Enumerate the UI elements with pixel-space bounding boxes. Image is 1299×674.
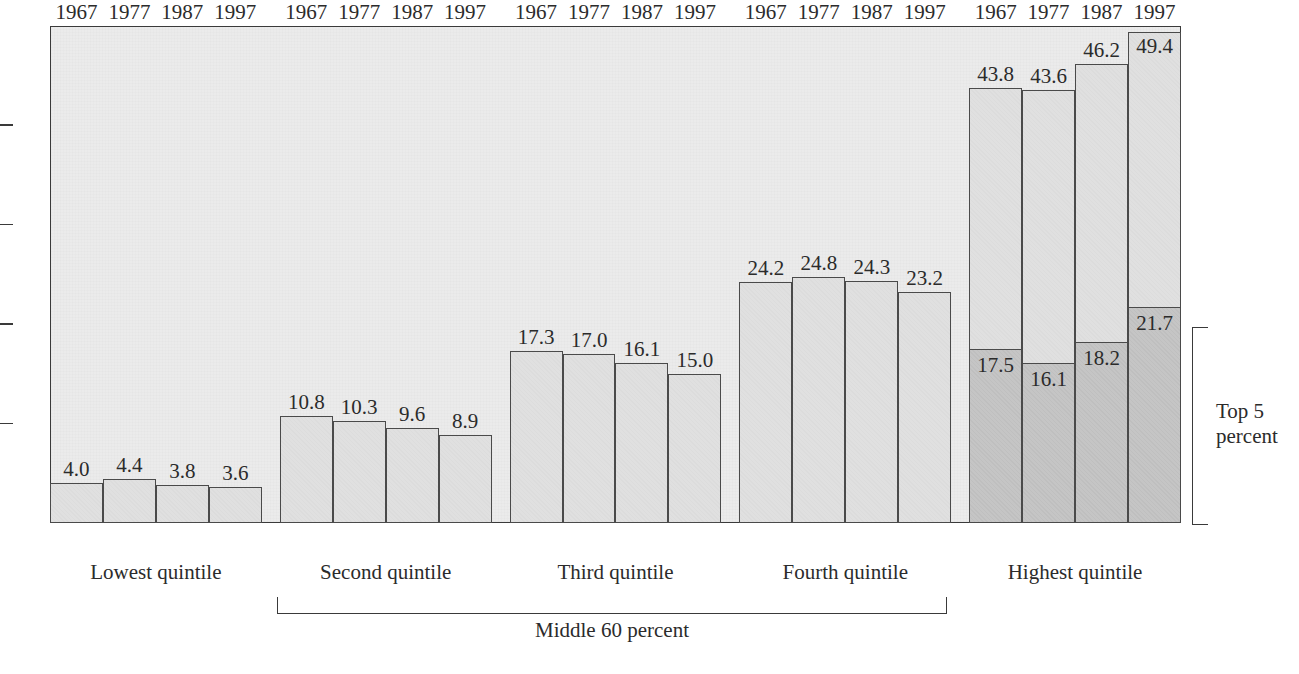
top-5-percent-label: Top 5 percent xyxy=(1216,399,1278,449)
bar[interactable]: 4.0 xyxy=(50,483,103,523)
top-5-percent-label-line2: percent xyxy=(1216,424,1278,449)
bar-slot: 4.4 xyxy=(103,26,156,523)
x-axis-year-label: 1987 xyxy=(845,0,898,24)
x-axis-year-label: 1987 xyxy=(616,0,669,24)
income-share-bar-chart: 50403020100 4.04.43.83.610.810.39.68.917… xyxy=(0,0,1299,674)
bar-slot: 16.1 xyxy=(615,26,668,523)
bar-group-caption: Third quintile xyxy=(510,560,722,584)
top-5-percent-bar[interactable]: 16.1 xyxy=(1022,363,1075,523)
x-axis-year-label: 1967 xyxy=(280,0,333,24)
bar-group-caption: Highest quintile xyxy=(969,560,1181,584)
bar-value-label: 10.3 xyxy=(341,397,378,418)
bar[interactable]: 4.4 xyxy=(103,479,156,523)
bar-value-label: 15.0 xyxy=(677,350,714,371)
bar-value-label: 4.0 xyxy=(63,459,89,480)
bar-group-caption: Second quintile xyxy=(280,560,492,584)
x-axis-year-label: 1967 xyxy=(969,0,1022,24)
bar[interactable]: 17.3 xyxy=(510,351,563,523)
bar[interactable]: 8.9 xyxy=(439,435,492,523)
bar-slot: 24.2 xyxy=(739,26,792,523)
x-axis-year-label: 1977 xyxy=(333,0,386,24)
bar-slot: 43.817.5 xyxy=(969,26,1022,523)
x-axis-year-label: 1997 xyxy=(668,0,721,24)
x-axis-year-label: 1987 xyxy=(1075,0,1128,24)
x-axis-year-label: 1977 xyxy=(1022,0,1075,24)
bar-value-label: 17.3 xyxy=(518,327,555,348)
bar-value-label: 8.9 xyxy=(452,411,478,432)
bar-value-label: 49.4 xyxy=(1136,36,1173,57)
y-axis: 50403020100 xyxy=(0,0,50,674)
bar[interactable]: 23.2 xyxy=(898,292,951,523)
bar-slot: 17.0 xyxy=(563,26,616,523)
y-axis-tick-mark xyxy=(0,423,13,425)
bar-slot: 23.2 xyxy=(898,26,951,523)
bar[interactable]: 24.3 xyxy=(845,281,898,523)
bar-value-label: 24.8 xyxy=(800,253,837,274)
bar-value-label: 17.0 xyxy=(571,330,608,351)
bar-value-label: 43.8 xyxy=(977,64,1014,85)
x-axis-year-label: 1967 xyxy=(510,0,563,24)
bar[interactable]: 9.6 xyxy=(386,428,439,523)
bar-slot: 3.6 xyxy=(209,26,262,523)
bar-group-caption: Fourth quintile xyxy=(739,560,951,584)
bar[interactable]: 24.2 xyxy=(739,282,792,523)
top-5-percent-value-label: 18.2 xyxy=(1083,348,1120,369)
bar[interactable]: 10.8 xyxy=(280,416,333,523)
top-5-percent-label-line1: Top 5 xyxy=(1216,399,1278,424)
x-axis-year-label: 1997 xyxy=(439,0,492,24)
bar[interactable]: 3.6 xyxy=(209,487,262,523)
x-axis-year-label: 1967 xyxy=(739,0,792,24)
bar-slot: 24.8 xyxy=(792,26,845,523)
bar[interactable]: 3.8 xyxy=(156,485,209,523)
y-axis-tick-mark xyxy=(0,224,13,226)
bar[interactable]: 17.0 xyxy=(563,354,616,523)
top-5-percent-bar[interactable]: 17.5 xyxy=(969,349,1022,523)
bar-groups: 4.04.43.83.610.810.39.68.917.317.016.115… xyxy=(50,26,1181,523)
x-axis-year-label: 1977 xyxy=(792,0,845,24)
bar-slot: 49.421.7 xyxy=(1128,26,1181,523)
middle-60-bracket xyxy=(277,597,947,614)
x-axis-year-label: 1977 xyxy=(103,0,156,24)
top-5-percent-bracket xyxy=(1192,327,1208,525)
x-axis-year-label: 1967 xyxy=(50,0,103,24)
top-5-percent-bar[interactable]: 18.2 xyxy=(1075,342,1128,523)
x-axis-year-label: 1997 xyxy=(1128,0,1181,24)
x-axis-year-label: 1997 xyxy=(209,0,262,24)
x-axis-year-label: 1977 xyxy=(563,0,616,24)
bar-slot: 15.0 xyxy=(668,26,721,523)
bar-value-label: 9.6 xyxy=(399,404,425,425)
bar[interactable]: 24.8 xyxy=(792,277,845,524)
bar-slot: 17.3 xyxy=(510,26,563,523)
bar-value-label: 24.3 xyxy=(853,257,890,278)
bar-value-label: 43.6 xyxy=(1030,66,1067,87)
bar-slot: 10.3 xyxy=(333,26,386,523)
bar-group: 24.224.824.323.2 xyxy=(739,26,951,523)
bar-value-label: 3.6 xyxy=(222,463,248,484)
y-axis-tick-mark xyxy=(0,323,13,325)
bar-value-label: 4.4 xyxy=(116,455,142,476)
bar-value-label: 3.8 xyxy=(169,461,195,482)
bar-value-label: 23.2 xyxy=(906,268,943,289)
bar-value-label: 46.2 xyxy=(1083,40,1120,61)
y-axis-tick-mark xyxy=(0,124,13,126)
x-axis-year-label: 1987 xyxy=(386,0,439,24)
bar-value-label: 10.8 xyxy=(288,392,325,413)
bar-slot: 9.6 xyxy=(386,26,439,523)
bar-group: 17.317.016.115.0 xyxy=(510,26,722,523)
bar[interactable]: 10.3 xyxy=(333,421,386,523)
top-5-percent-value-label: 16.1 xyxy=(1030,369,1067,390)
bar-slot: 10.8 xyxy=(280,26,333,523)
bar-group-caption: Lowest quintile xyxy=(50,560,262,584)
top-5-percent-value-label: 17.5 xyxy=(977,355,1014,376)
bar-slot: 3.8 xyxy=(156,26,209,523)
bar-group: 43.817.543.616.146.218.249.421.7 xyxy=(969,26,1181,523)
bar-slot: 4.0 xyxy=(50,26,103,523)
x-axis-year-label: 1997 xyxy=(898,0,951,24)
bar-value-label: 24.2 xyxy=(747,258,784,279)
bar-slot: 24.3 xyxy=(845,26,898,523)
top-5-percent-value-label: 21.7 xyxy=(1136,313,1173,334)
bar[interactable]: 16.1 xyxy=(615,363,668,523)
bar-value-label: 16.1 xyxy=(624,339,661,360)
top-5-percent-bar[interactable]: 21.7 xyxy=(1128,307,1181,523)
bar[interactable]: 15.0 xyxy=(668,374,721,523)
